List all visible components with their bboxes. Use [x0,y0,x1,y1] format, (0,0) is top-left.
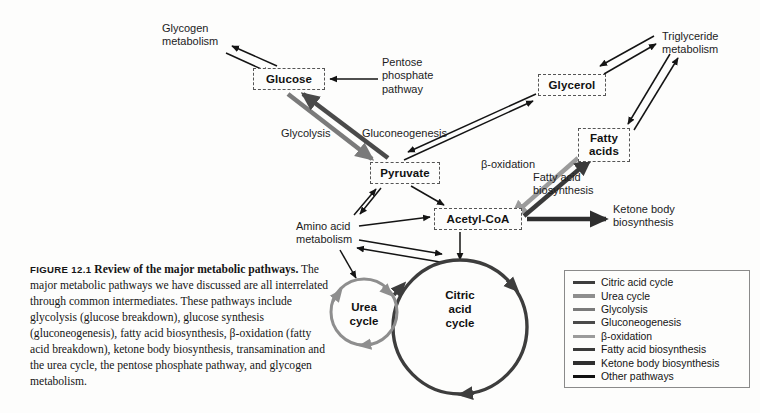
legend: Citric acid cycle Urea cycle Glycolysis … [564,270,750,388]
label-glycogen-metabolism: Glycogen metabolism [162,22,218,49]
node-fatty-acids[interactable]: Fatty acids [578,128,630,162]
legend-label-gluconeogenesis: Gluconeogenesis [601,317,681,328]
edge-glycerol-triglyceride-metabolism [600,36,656,74]
legend-item: Other pathways [573,370,743,383]
label-beta-oxidation: β-oxidation [481,158,535,171]
legend-item: Glycolysis [573,303,743,316]
legend-label-fatty-acid-biosynthesis: Fatty acid biosynthesis [601,344,706,355]
edge-amino-acid-metabolism-citric-acid-cycle [357,240,442,262]
label-urea-cycle: Urea cycle [336,300,392,328]
legend-swatch-urea-cycle [573,294,595,297]
edge-fatty-acids-triglyceride-metabolism [628,54,678,130]
node-pyruvate[interactable]: Pyruvate [370,162,440,184]
legend-swatch-beta-oxidation [573,335,595,338]
legend-label-urea-cycle: Urea cycle [601,291,650,302]
label-triglyceride-metabolism: Triglyceride metabolism [662,30,718,57]
legend-swatch-gluconeogenesis [573,321,595,324]
legend-swatch-other-pathways [573,375,595,378]
edge-amino-acid-metabolism-acetyl-coa [359,217,430,226]
node-acetyl-coa[interactable]: Acetyl-CoA [434,208,522,230]
edge-amino-acid-metabolism-pyruvate [354,188,381,215]
label-gluconeogenesis: Gluconeogenesis [362,127,447,140]
edge-gluconeogenesis [303,94,388,158]
edge-amino-acid-metabolism-urea-cycle [340,250,356,278]
legend-label-ketone-body-biosynthesis: Ketone body biosynthesis [601,358,719,369]
label-ketone-body-biosynthesis: Ketone body biosynthesis [613,203,675,230]
legend-item: Ketone body biosynthesis [573,356,743,369]
label-amino-acid-metabolism: Amino acid metabolism [296,220,352,247]
figure-number: FIGURE 12.1 [30,264,91,275]
figure-caption: FIGURE 12.1 Review of the major metaboli… [30,262,330,390]
legend-label-other-pathways: Other pathways [601,371,674,382]
legend-item: Gluconeogenesis [573,316,743,329]
legend-label-beta-oxidation: β-oxidation [601,331,652,342]
node-glycerol[interactable]: Glycerol [538,74,606,96]
figure-caption-body: The major metabolic pathways we have dis… [30,263,328,388]
label-fatty-acid-biosynthesis: Fatty acid biosynthesis [533,171,594,198]
legend-item: Urea cycle [573,289,743,302]
legend-swatch-glycolysis [573,308,595,311]
edge-pyruvate-acetyl-coa [411,186,444,205]
legend-label-glycolysis: Glycolysis [601,304,648,315]
legend-swatch-ketone-body-biosynthesis [573,361,595,364]
legend-swatch-citric-acid-cycle [573,281,595,284]
figure-title: Review of the major metabolic pathways. [94,263,298,276]
node-glucose[interactable]: Glucose [253,68,325,90]
legend-label-citric-acid-cycle: Citric acid cycle [601,277,673,288]
legend-item: Fatty acid biosynthesis [573,343,743,356]
legend-item: β-oxidation [573,330,743,343]
label-glycolysis: Glycolysis [281,127,331,140]
legend-item: Citric acid cycle [573,276,743,289]
legend-swatch-fatty-acid-biosynthesis [573,348,595,351]
label-pentose-phosphate-pathway: Pentose phosphate pathway [382,56,433,96]
figure-page: Glucose Glycerol Fatty acids Pyruvate Ac… [0,0,760,413]
label-citric-acid-cycle: Citric acid cycle [424,288,496,330]
